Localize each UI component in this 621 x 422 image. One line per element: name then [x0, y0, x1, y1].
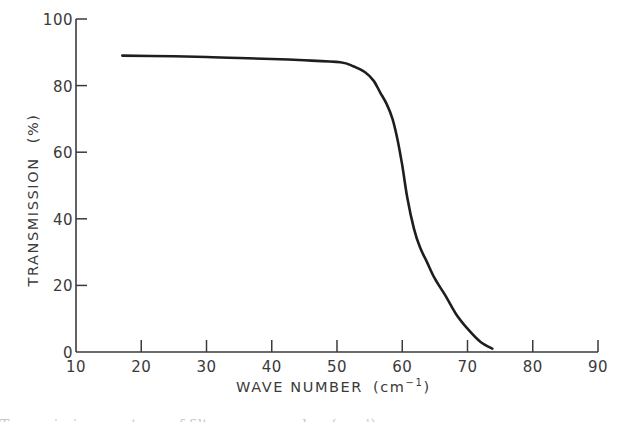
x-tick-label: 60 [392, 358, 412, 376]
x-tick-label: 30 [196, 358, 216, 376]
x-tick-label: 50 [327, 358, 347, 376]
transmission-curve [122, 56, 492, 349]
x-tick-label: 80 [523, 358, 543, 376]
x-axis-title-main: WAVE NUMBER [236, 379, 363, 395]
x-axis-title: WAVE NUMBER(cm−1) [236, 377, 431, 395]
x-axis-title-unit-open: (cm [373, 379, 406, 395]
y-tick-label: 100 [43, 11, 73, 29]
y-tick-label: 60 [53, 144, 73, 162]
x-axis-title-unit-close: ) [424, 379, 431, 395]
y-tick-label: 80 [53, 78, 73, 96]
x-tick-label: 40 [262, 358, 282, 376]
y-axis-title: TRANSMISSION(%) [25, 113, 41, 287]
x-axis: 102030405060708090 [66, 340, 608, 376]
figure-caption-cropped: Transmission spectrum of filter, wave nu… [0, 414, 621, 422]
y-tick-label: 20 [53, 277, 73, 295]
y-ticks: 020406080100 [43, 11, 87, 362]
x-tick-label: 90 [588, 358, 608, 376]
x-axis-title-unit-sup: −1 [406, 377, 424, 388]
transmission-chart: 020406080100 102030405060708090 WAVE NUM… [0, 0, 621, 422]
x-tick-label: 10 [66, 358, 86, 376]
y-axis-title-main: TRANSMISSION [25, 157, 41, 287]
x-tick-label: 20 [131, 358, 151, 376]
x-tick-label: 70 [457, 358, 477, 376]
y-axis-title-unit: (%) [25, 113, 41, 143]
y-axis: 020406080100 [43, 11, 87, 362]
x-ticks: 102030405060708090 [66, 340, 608, 376]
y-tick-label: 40 [53, 211, 73, 229]
